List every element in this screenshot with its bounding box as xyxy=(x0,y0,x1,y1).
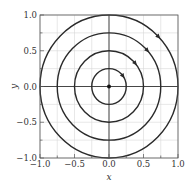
x-tick-label: −0.5 xyxy=(64,159,85,169)
equilibrium-point xyxy=(107,85,111,89)
x-tick-label: 0.5 xyxy=(137,159,151,169)
phase-portrait-chart: −1.0−0.50.00.51.0 −1.0−0.50.00.51.0 x y xyxy=(0,0,191,183)
y-tick-label: 0.5 xyxy=(23,46,37,56)
x-tick-label: 1.0 xyxy=(171,159,185,169)
y-tick-labels: −1.0−0.50.00.51.0 xyxy=(16,10,37,163)
y-tick-label: −1.0 xyxy=(16,153,37,163)
y-tick-label: −0.5 xyxy=(16,117,37,127)
y-tick-label: 0.0 xyxy=(23,82,37,92)
y-axis-label: y xyxy=(9,83,19,90)
x-tick-labels: −1.0−0.50.00.51.0 xyxy=(30,159,185,169)
x-axis-label: x xyxy=(106,172,111,182)
x-tick-label: 0.0 xyxy=(102,159,116,169)
y-tick-label: 1.0 xyxy=(23,10,37,20)
